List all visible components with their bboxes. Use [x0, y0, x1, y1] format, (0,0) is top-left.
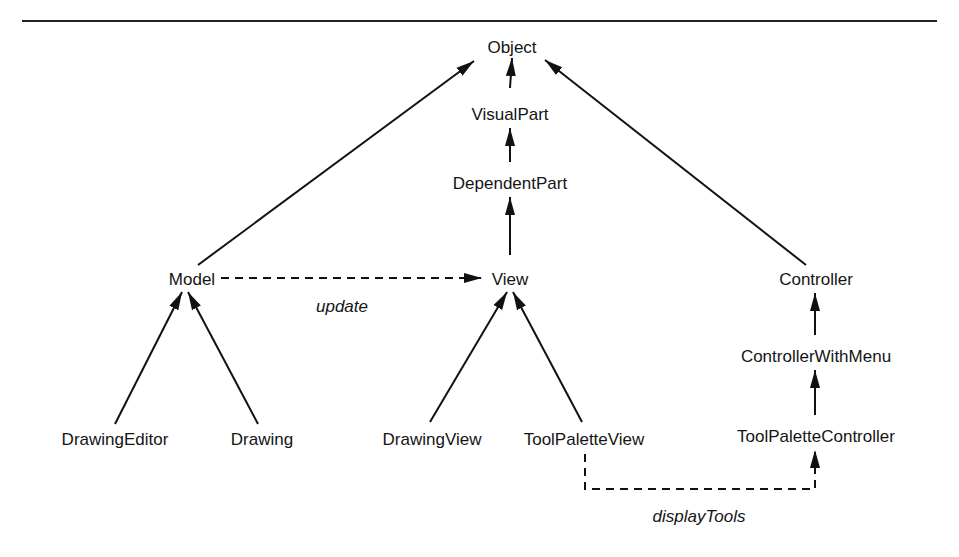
node-toolpalettecontroller: ToolPaletteController	[737, 427, 895, 447]
node-controllerwithmenu: ControllerWithMenu	[741, 347, 891, 367]
node-view: View	[492, 270, 529, 290]
node-drawing: Drawing	[231, 430, 293, 450]
edge-label-update: update	[316, 297, 368, 317]
edge-drawingview-view	[430, 292, 507, 422]
edge-model-object	[198, 61, 474, 265]
edge-drawingeditor-model	[115, 292, 182, 424]
node-dependentpart: DependentPart	[453, 174, 567, 194]
node-drawingeditor: DrawingEditor	[62, 430, 169, 450]
edge-label-displaytools: displayTools	[653, 507, 746, 527]
edge-toolpaletteview-view	[513, 292, 582, 422]
node-drawingview: DrawingView	[383, 430, 482, 450]
edge-controller-object	[545, 60, 806, 265]
node-object: Object	[487, 38, 536, 58]
edge-toolpaletteview-toolpalettecontroller-displaytools	[585, 450, 815, 489]
node-model: Model	[169, 270, 215, 290]
node-controller: Controller	[779, 270, 853, 290]
edge-drawing-model	[188, 292, 258, 424]
node-visualpart: VisualPart	[471, 105, 548, 125]
node-toolpaletteview: ToolPaletteView	[524, 430, 645, 450]
edge-visualpart-object	[510, 58, 512, 88]
